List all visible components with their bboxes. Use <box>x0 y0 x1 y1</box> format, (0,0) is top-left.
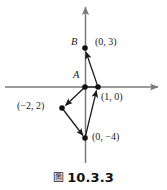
vector-1-0-to-b <box>86 52 98 87</box>
caption-number: 10.3.3 <box>67 171 114 184</box>
vectors-group <box>62 52 98 138</box>
label-coords-0-3: (0, 3) <box>95 37 117 47</box>
figure-caption: 圖 10.3.3 <box>0 165 167 190</box>
figure-glyph-icon: 圖 <box>53 172 64 182</box>
coordinate-plot: B (0, 3) A (1, 0) (−2, 2) (0, −4) <box>0 0 167 165</box>
label-coords-0-minus4: (0, −4) <box>92 132 119 142</box>
point-minus2-2 <box>59 105 65 111</box>
label-point-a: A <box>73 70 79 81</box>
point-a <box>82 84 88 90</box>
label-point-b: B <box>71 37 77 48</box>
point-0-minus4 <box>82 135 88 141</box>
caption-inner: 圖 10.3.3 <box>53 171 114 184</box>
figure-container: B (0, 3) A (1, 0) (−2, 2) (0, −4) 圖 10.3… <box>0 0 167 190</box>
axes-group <box>5 7 158 163</box>
point-b-0-3 <box>82 45 88 51</box>
label-coords-1-0: (1, 0) <box>101 92 123 102</box>
points-group <box>59 45 101 141</box>
vector-minus2-2-to-0-minus4 <box>62 108 83 136</box>
label-coords-minus2-2: (−2, 2) <box>17 101 44 111</box>
vector-a-to-minus2-2 <box>66 87 86 106</box>
point-1-0 <box>95 84 101 90</box>
plot-svg <box>0 0 167 165</box>
